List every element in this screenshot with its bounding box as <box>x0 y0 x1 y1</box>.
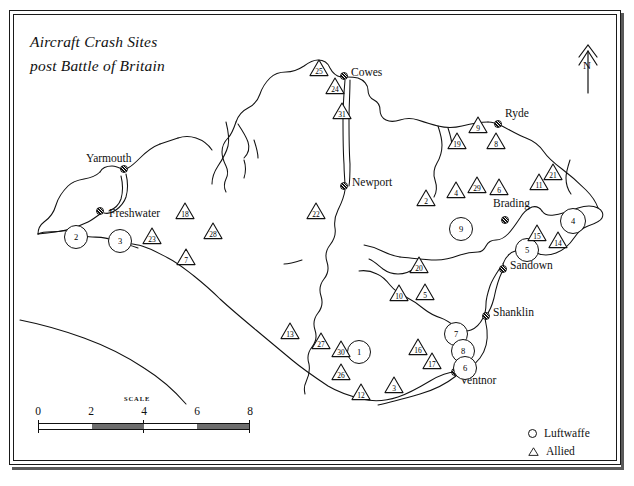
scale-tick-3: 6 <box>194 405 200 417</box>
luftwaffe-crash-marker[interactable]: 9 <box>449 217 473 241</box>
legend-item-allied: Allied <box>528 442 590 460</box>
marker-number: 4 <box>571 217 575 226</box>
map-page: Aircraft Crash Sites post Battle of Brit… <box>0 0 634 486</box>
allied-crash-marker[interactable]: 17 <box>422 352 442 370</box>
triangle-icon <box>528 447 539 456</box>
marker-number: 2 <box>416 198 436 206</box>
marker-number: 15 <box>527 233 547 241</box>
town-label: Cowes <box>351 66 382 78</box>
marker-number: 7 <box>454 330 458 339</box>
marker-number: 9 <box>459 225 463 234</box>
marker-number: 2 <box>74 233 78 242</box>
town-dot-icon <box>501 216 509 224</box>
marker-number: 27 <box>311 341 331 349</box>
allied-crash-marker[interactable]: 28 <box>203 222 223 240</box>
marker-number: 5 <box>415 292 435 300</box>
scale-segment <box>92 424 145 429</box>
allied-crash-marker[interactable]: 13 <box>280 322 300 340</box>
luftwaffe-crash-marker[interactable]: 2 <box>64 225 88 249</box>
town-label: Shanklin <box>493 306 534 318</box>
legend-label: Allied <box>546 445 575 457</box>
marker-number: 3 <box>118 237 122 246</box>
allied-crash-marker[interactable]: 20 <box>409 256 429 274</box>
allied-crash-marker[interactable]: 24 <box>325 77 345 95</box>
scale-segment <box>39 424 92 429</box>
scale-caption: SCALE <box>124 395 150 402</box>
marker-number: 14 <box>548 240 568 248</box>
marker-number: 13 <box>280 331 300 339</box>
scale-bar <box>38 423 250 430</box>
marker-number: 17 <box>422 361 442 369</box>
marker-number: 4 <box>446 190 466 198</box>
marker-number: 29 <box>467 185 487 193</box>
allied-crash-marker[interactable]: 6 <box>489 178 509 196</box>
marker-number: 6 <box>489 187 509 195</box>
marker-number: 18 <box>175 211 195 219</box>
marker-number: 20 <box>409 265 429 273</box>
town-dot-icon <box>482 312 490 320</box>
luftwaffe-crash-marker[interactable]: 6 <box>453 356 477 380</box>
allied-crash-marker[interactable]: 5 <box>415 283 435 301</box>
scale-tick-1: 2 <box>88 405 94 417</box>
allied-crash-marker[interactable]: 18 <box>175 202 195 220</box>
scale-tick-4: 8 <box>247 405 253 417</box>
marker-number: 19 <box>447 141 467 149</box>
allied-crash-marker[interactable]: 15 <box>527 224 547 242</box>
marker-number: 8 <box>486 141 506 149</box>
allied-crash-marker[interactable]: 3 <box>384 376 404 394</box>
allied-crash-marker[interactable]: 21 <box>543 163 563 181</box>
map-legend: Luftwaffe Allied <box>528 424 590 460</box>
allied-crash-marker[interactable]: 27 <box>311 332 331 350</box>
marker-number: 30 <box>331 349 351 357</box>
scale-segment <box>144 424 197 429</box>
town-label: Freshwater <box>109 207 160 219</box>
allied-crash-marker[interactable]: 30 <box>331 340 351 358</box>
marker-number: 28 <box>203 231 223 239</box>
marker-number: 10 <box>389 293 409 301</box>
marker-number: 5 <box>525 246 529 255</box>
town-label: Ryde <box>505 107 529 119</box>
scale-tick-2: 4 <box>141 405 147 417</box>
allied-crash-marker[interactable]: 8 <box>486 132 506 150</box>
allied-crash-marker[interactable]: 10 <box>389 284 409 302</box>
town-dot-icon <box>120 165 128 173</box>
allied-crash-marker[interactable]: 25 <box>309 59 329 77</box>
allied-crash-marker[interactable]: 31 <box>332 102 352 120</box>
marker-number: 8 <box>461 347 465 356</box>
circle-icon <box>528 429 537 438</box>
allied-crash-marker[interactable]: 23 <box>142 227 162 245</box>
luftwaffe-crash-marker[interactable]: 4 <box>560 208 586 234</box>
allied-crash-marker[interactable]: 4 <box>446 181 466 199</box>
marker-number: 24 <box>325 86 345 94</box>
town-dot-icon <box>96 207 104 215</box>
allied-crash-marker[interactable]: 19 <box>447 132 467 150</box>
marker-number: 25 <box>309 68 329 76</box>
marker-number: 11 <box>529 182 549 190</box>
town-dot-icon <box>340 182 348 190</box>
town-dot-icon <box>494 120 502 128</box>
marker-number: 22 <box>306 211 326 219</box>
north-arrow-label: N <box>583 59 591 71</box>
allied-crash-marker[interactable]: 2 <box>416 189 436 207</box>
marker-number: 7 <box>176 257 196 265</box>
allied-crash-marker[interactable]: 26 <box>331 363 351 381</box>
allied-crash-marker[interactable]: 29 <box>467 176 487 194</box>
allied-crash-marker[interactable]: 9 <box>468 116 488 134</box>
marker-number: 1 <box>357 348 361 357</box>
marker-number: 26 <box>331 372 351 380</box>
allied-crash-marker[interactable]: 7 <box>176 248 196 266</box>
scale-tick-0: 0 <box>35 405 41 417</box>
allied-crash-marker[interactable]: 22 <box>306 202 326 220</box>
marker-number: 9 <box>468 125 488 133</box>
marker-number: 23 <box>142 236 162 244</box>
marker-number: 21 <box>543 172 563 180</box>
allied-crash-marker[interactable]: 12 <box>351 383 371 401</box>
town-label: Newport <box>352 176 392 188</box>
marker-number: 3 <box>384 385 404 393</box>
marker-number: 6 <box>463 364 467 373</box>
allied-crash-marker[interactable]: 14 <box>548 231 568 249</box>
marker-number: 31 <box>332 111 352 119</box>
marker-number: 12 <box>351 392 371 400</box>
town-label: Brading <box>493 197 530 209</box>
luftwaffe-crash-marker[interactable]: 3 <box>108 229 132 253</box>
